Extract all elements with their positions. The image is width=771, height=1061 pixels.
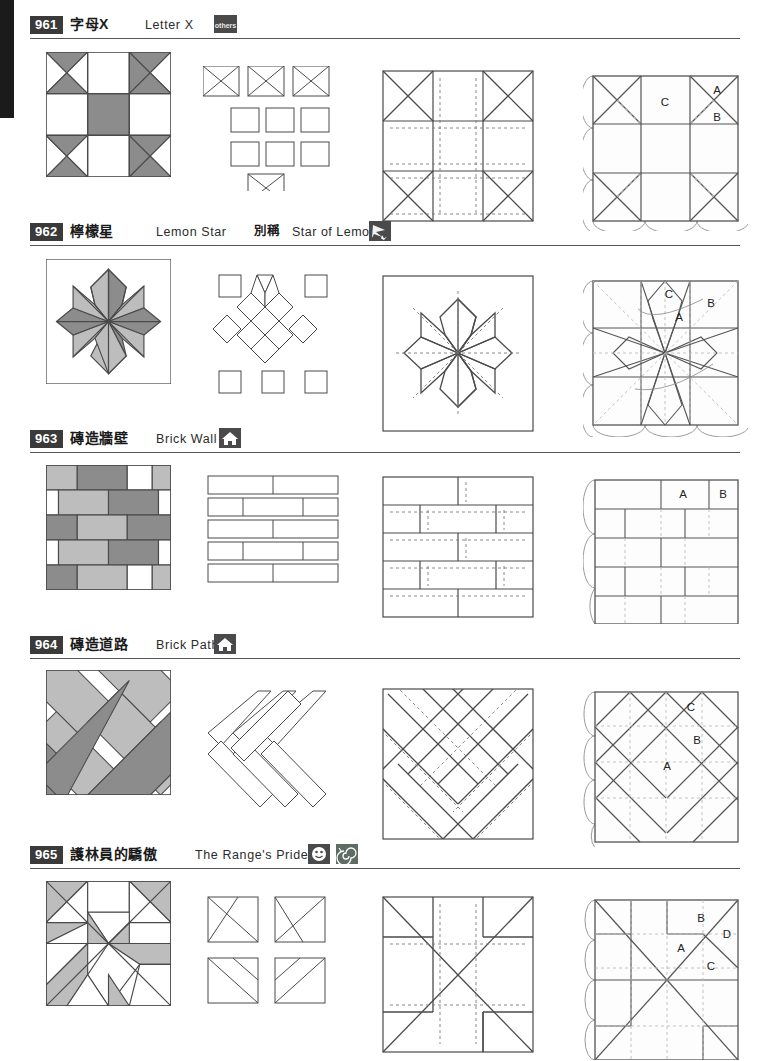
entry-header-961: 961 字母X Letter X others (30, 14, 740, 44)
template-letter-b-964: B (693, 734, 701, 746)
template-letter-a-965: A (677, 942, 685, 954)
entry-header-964: 964 磚造道路 Brick Path (30, 634, 740, 664)
entry-name-cn-965: 護林員的驕傲 (70, 846, 157, 862)
entry-number-963: 963 (30, 430, 63, 448)
entry-name-cn-964: 磚造道路 (70, 636, 128, 652)
template-letter-d-965: D (723, 928, 731, 940)
block-swatch-963 (46, 465, 171, 590)
entry-number-964: 964 (30, 636, 63, 654)
template-letter-c-961: C (661, 96, 669, 108)
template-letter-b-963: B (719, 488, 727, 500)
block-swatch-962 (46, 259, 171, 384)
others-badge-text: others (215, 22, 237, 29)
block-swatch-964 (46, 670, 171, 795)
template-letter-a-961: A (713, 84, 721, 96)
piece-diagram-965 (203, 892, 348, 1017)
construction-diagram-964 (378, 684, 538, 844)
piece-diagram-961 (203, 66, 343, 191)
construction-diagram-963 (378, 472, 538, 622)
template-diagram-965: A B C D (583, 890, 748, 1060)
entry-header-963: 963 磚造牆壁 Brick Wall (30, 428, 740, 458)
house-badge-icon[interactable] (214, 634, 235, 653)
entry-number-961: 961 (30, 16, 63, 34)
template-diagram-961: A B C (583, 66, 748, 231)
entry-name-en-965: The Range's Pride (195, 848, 308, 863)
entry-name-cn-962: 檸檬星 (70, 223, 114, 239)
entry-header-965: 965 護林員的驕傲 The Range's Pride (30, 844, 740, 874)
template-letter-c-962: C (665, 288, 673, 300)
block-swatch-961 (46, 52, 171, 177)
template-letter-a-964: A (663, 760, 671, 772)
entry-rule-961 (30, 38, 740, 39)
entry-number-962: 962 (30, 223, 63, 241)
entry-name-en-963: Brick Wall (156, 432, 217, 447)
entry-name-en-962: Lemon Star (156, 225, 227, 240)
template-diagram-963: A B (583, 472, 748, 624)
spiral-badge-icon[interactable] (336, 844, 357, 863)
house-badge-icon[interactable] (219, 428, 240, 447)
template-diagram-964: A B C (583, 682, 748, 847)
others-badge-icon[interactable]: others (214, 15, 235, 34)
smiley-badge-icon[interactable] (308, 844, 329, 863)
entry-rule-962 (30, 245, 740, 246)
star-badge-icon[interactable] (369, 221, 390, 240)
template-letter-b-961: B (713, 111, 721, 123)
piece-diagram-963 (203, 472, 348, 584)
template-letter-a-962: A (675, 311, 683, 323)
entry-name-en-961: Letter X (145, 18, 194, 33)
block-swatch-965 (46, 881, 171, 1006)
template-letter-b-965: B (697, 912, 705, 924)
template-letter-c-964: C (687, 701, 695, 713)
template-letter-c-965: C (707, 960, 715, 972)
construction-diagram-965 (378, 892, 538, 1057)
piece-diagram-964 (203, 686, 348, 811)
quilt-pattern-page: 961 字母X Letter X others (0, 0, 771, 1061)
piece-diagram-962 (207, 271, 347, 406)
entry-name-en-964: Brick Path (156, 638, 219, 653)
construction-diagram-962 (378, 271, 538, 436)
entry-alt-label-962: 別稱 (254, 224, 280, 239)
entry-number-965: 965 (30, 846, 63, 864)
template-diagram-962: A B C (583, 269, 748, 437)
entry-rule-965 (30, 868, 740, 869)
entry-rule-964 (30, 658, 740, 659)
entry-header-962: 962 檸檬星 Lemon Star 別稱 Star of Lemoyne (30, 221, 740, 251)
entry-name-cn-961: 字母X (70, 16, 109, 32)
entry-name-cn-963: 磚造牆壁 (70, 430, 128, 446)
template-letter-b-962: B (707, 297, 715, 309)
template-letter-a-963: A (679, 488, 687, 500)
construction-diagram-961 (378, 66, 538, 226)
entry-rule-963 (30, 452, 740, 453)
